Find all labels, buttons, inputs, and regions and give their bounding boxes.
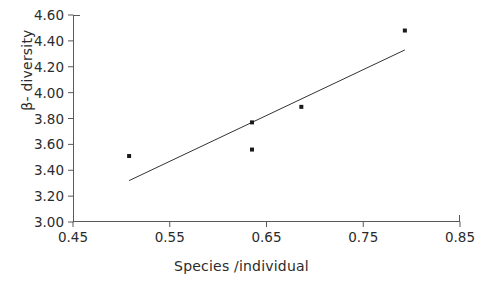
data-point-4 (403, 29, 407, 33)
x-tick-label-3: 0.75 (333, 229, 393, 245)
y-tick-label-5: 4.00 (14, 85, 64, 101)
y-tick-label-4: 3.80 (14, 111, 64, 127)
x-tick-label-0: 0.45 (43, 229, 103, 245)
x-tick-label-1: 0.55 (140, 229, 200, 245)
y-tick-label-1: 3.20 (14, 188, 64, 204)
y-tick-label-2: 3.40 (14, 162, 64, 178)
trendline-segment (129, 50, 405, 181)
x-axis-title: Species /individual (0, 258, 483, 274)
y-tick-label-0: 3.00 (14, 214, 64, 230)
x-tick-label-2: 0.65 (237, 229, 297, 245)
y-tick-label-6: 4.20 (14, 59, 64, 75)
y-tick-label-8: 4.60 (14, 7, 64, 23)
data-point-2 (250, 148, 254, 152)
trendline (129, 50, 405, 181)
data-point-3 (299, 105, 303, 109)
data-point-0 (127, 154, 131, 158)
data-point-1 (250, 120, 254, 124)
y-tick-label-3: 3.60 (14, 136, 64, 152)
x-tick-label-4: 0.85 (430, 229, 483, 245)
axes-group (68, 15, 460, 227)
plot-canvas (73, 15, 460, 222)
plot-area (73, 15, 460, 222)
scatter-chart-figure: β- diversity 3.003.203.403.603.804.004.2… (0, 0, 483, 287)
data-markers (127, 29, 407, 158)
y-tick-label-7: 4.40 (14, 33, 64, 49)
